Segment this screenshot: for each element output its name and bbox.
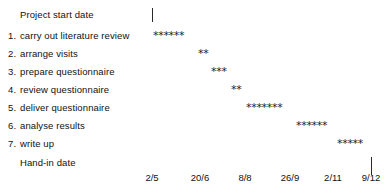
gantt-row-number: 5.	[8, 101, 20, 115]
axis-tick-label: 2/5	[145, 172, 158, 184]
gantt-row-number: 3.	[8, 65, 20, 79]
gantt-row-text: arrange visits	[20, 48, 78, 59]
axis-tick-label: 8/8	[238, 172, 251, 184]
gantt-bar: ******	[296, 119, 327, 133]
gantt-row-label: Project start date	[8, 8, 94, 22]
axis-tick-label: 2/11	[324, 172, 342, 184]
gantt-row-text: review questionnaire	[20, 84, 109, 95]
gantt-row-text: prepare questionnaire	[20, 66, 115, 77]
gantt-chart: Project start date1.carry out literature…	[0, 0, 392, 196]
gantt-bar: ******	[153, 29, 184, 43]
gantt-bar: *****	[337, 137, 363, 151]
axis-tick-label: 9/12	[362, 172, 381, 184]
gantt-row-text: carry out literature review	[20, 30, 129, 41]
gantt-row-label: 4.review questionnaire	[8, 83, 109, 97]
gantt-row-number: 6.	[8, 119, 20, 133]
project-start-tick-icon	[152, 8, 153, 22]
gantt-row-label: Hand-in date	[8, 156, 76, 170]
gantt-row-label: 7.write up	[8, 137, 54, 151]
gantt-bar: **	[231, 83, 241, 97]
gantt-row-number: 2.	[8, 47, 20, 61]
gantt-row-text: analyse results	[20, 120, 85, 131]
gantt-row-label: 2.arrange visits	[8, 47, 78, 61]
gantt-row-text: deliver questionnaire	[20, 102, 110, 113]
gantt-row-number: 7.	[8, 137, 20, 151]
gantt-row-text: write up	[20, 138, 54, 149]
gantt-row-label: 6.analyse results	[8, 119, 85, 133]
gantt-row-label: 3.prepare questionnaire	[8, 65, 115, 79]
gantt-bar: *******	[246, 101, 282, 115]
gantt-row-text: Project start date	[20, 9, 94, 20]
axis-tick-label: 20/6	[191, 172, 210, 184]
gantt-bar: ***	[211, 65, 227, 79]
gantt-row-text: Hand-in date	[20, 157, 76, 168]
axis-tick-label: 26/9	[281, 172, 300, 184]
gantt-row-number: 4.	[8, 83, 20, 97]
gantt-row-number: 1.	[8, 29, 20, 43]
gantt-row-label: 5.deliver questionnaire	[8, 101, 110, 115]
gantt-bar: **	[198, 47, 208, 61]
gantt-row-label: 1.carry out literature review	[8, 29, 129, 43]
